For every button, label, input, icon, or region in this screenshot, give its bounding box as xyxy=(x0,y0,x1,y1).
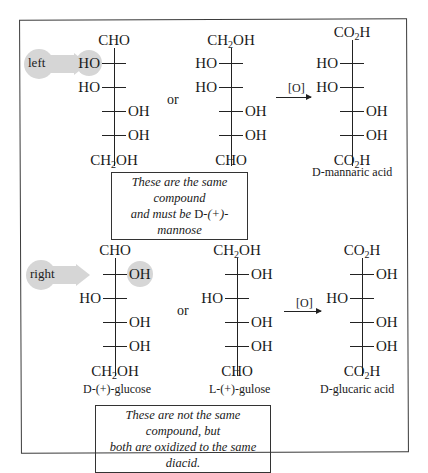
note-not-same-compound: These are not the same compound, but bot… xyxy=(95,405,271,473)
fischer-d-mannaric-acid: CO2H HO HO OH OH CO2H xyxy=(292,24,412,174)
group-row-2: HO xyxy=(201,290,223,306)
group-row-2: HO xyxy=(78,79,100,95)
compound-name-l-gulose: L-(+)-gulose xyxy=(209,382,270,397)
group-row-1: HO xyxy=(316,55,338,71)
note-line-1: These are not the same compound, but xyxy=(100,407,266,439)
group-row-2: HO xyxy=(79,290,101,306)
group-row-1: OH xyxy=(129,266,151,282)
group-row-4: OH xyxy=(366,127,388,143)
fischer-d-glucose: CHO OH HO OH OH CH2OH xyxy=(55,242,175,382)
group-top: CHO xyxy=(55,242,175,258)
group-bottom: CO2H xyxy=(302,363,422,379)
group-row-2: HO xyxy=(316,79,338,95)
group-row-3: OH xyxy=(128,103,150,119)
note-line-2: both are oxidized to the same diacid. xyxy=(100,439,266,471)
left-pointer-label: left xyxy=(28,55,45,71)
group-row-4: OH xyxy=(245,127,267,143)
group-bottom: CH2OH xyxy=(54,152,174,168)
group-row-3: OH xyxy=(376,314,398,330)
fischer-d-mannose-2: CH2OH HO HO OH OH CHO xyxy=(171,32,291,172)
group-top: CHO xyxy=(54,32,174,48)
group-row-1: HO xyxy=(195,55,217,71)
group-row-4: OH xyxy=(129,338,151,354)
note-line-2: and must be D-(+)-mannose xyxy=(116,206,243,238)
compound-name-d-glucaric-acid: D-glucaric acid xyxy=(320,382,394,397)
group-top: CH2OH xyxy=(177,242,297,258)
group-row-3: OH xyxy=(129,314,151,330)
group-row-3: OH xyxy=(251,314,273,330)
note-line-1: These are the same compound xyxy=(116,174,243,206)
compound-name-d-mannaric-acid: D-mannaric acid xyxy=(312,165,392,180)
group-row-1: HO xyxy=(78,55,100,71)
group-row-4: OH xyxy=(376,338,398,354)
group-row-1: OH xyxy=(251,266,273,282)
compound-name-d-glucose: D-(+)-glucose xyxy=(83,382,151,397)
fischer-d-mannose-1: CHO HO HO OH OH CH2OH xyxy=(54,32,174,172)
group-row-3: OH xyxy=(366,103,388,119)
group-bottom: CHO xyxy=(177,363,297,379)
group-row-3: OH xyxy=(245,103,267,119)
group-row-1: OH xyxy=(376,266,398,282)
group-row-4: OH xyxy=(251,338,273,354)
fischer-l-gulose: CH2OH OH HO OH OH CHO xyxy=(177,242,297,382)
fischer-d-glucaric-acid: CO2H OH HO OH OH CO2H xyxy=(302,242,422,382)
group-bottom: CHO xyxy=(171,152,291,168)
group-row-2: HO xyxy=(326,290,348,306)
group-top: CH2OH xyxy=(171,32,291,48)
group-row-4: OH xyxy=(128,127,150,143)
group-row-2: HO xyxy=(195,79,217,95)
group-bottom: CH2OH xyxy=(55,363,175,379)
group-top: CO2H xyxy=(302,242,422,258)
note-same-compound: These are the same compound and must be … xyxy=(111,172,248,240)
group-top: CO2H xyxy=(292,24,412,40)
right-pointer-label: right xyxy=(30,266,55,282)
